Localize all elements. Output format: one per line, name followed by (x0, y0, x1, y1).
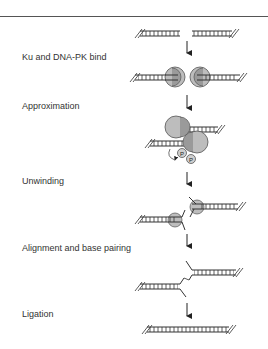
nhej-diagram: P P (0, 0, 268, 349)
svg-text:P: P (180, 151, 184, 157)
unwinding-complex (135, 197, 246, 230)
ligated-dna (142, 325, 236, 334)
approximation-complex: P P (145, 116, 225, 164)
broken-dna (135, 29, 239, 38)
aligned-dna (135, 261, 243, 297)
phosphorylation-arrow-icon (169, 149, 175, 160)
dna-fragment-left (135, 29, 180, 38)
svg-text:P: P (189, 157, 193, 163)
ku-dnapk-complex (130, 67, 247, 87)
dna-fragment-right (192, 29, 239, 38)
